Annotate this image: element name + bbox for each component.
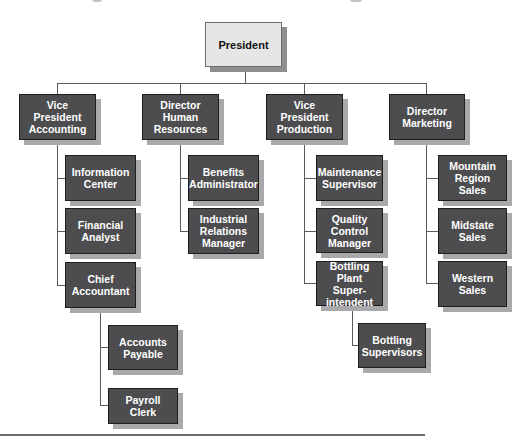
- connector-payroll-clerk: [100, 405, 108, 406]
- connector-bottling-trunk: [352, 306, 353, 346]
- connector-to-dir-marketing: [426, 83, 427, 94]
- node-industrial-relations-manager: Industrial Relations Manager: [188, 208, 259, 254]
- connector-bottling-plant: [304, 283, 316, 284]
- connector-level1-bus: [57, 83, 427, 84]
- node-accounts-payable: Accounts Payable: [108, 325, 178, 370]
- connector-benefits-admin: [180, 178, 188, 179]
- node-payroll-clerk: Payroll Clerk: [108, 388, 178, 424]
- node-chief-accountant: Chief Accountant: [65, 262, 136, 308]
- org-chart: President Vice President Accounting Dire…: [0, 0, 529, 446]
- node-bottling-supervisors: Bottling Supervisors: [358, 323, 426, 368]
- node-western-sales: Western Sales: [438, 261, 507, 307]
- node-financial-analyst: Financial Analyst: [65, 208, 136, 254]
- connector-western: [426, 283, 438, 284]
- node-director-hr: Director Human Resources: [142, 94, 219, 140]
- connector-to-dir-hr: [180, 83, 181, 94]
- connector-to-vp-production: [304, 83, 305, 94]
- connector-industrial-relations: [180, 231, 188, 232]
- node-vp-accounting: Vice President Accounting: [19, 94, 96, 140]
- connector-accounts-payable: [100, 347, 108, 348]
- connector-financial-analyst: [57, 231, 65, 232]
- connector-production-trunk: [304, 140, 305, 284]
- connector-maintenance: [304, 178, 316, 179]
- connector-marketing-trunk: [426, 140, 427, 284]
- connector-info-center: [57, 178, 65, 179]
- node-midstate-sales: Midstate Sales: [438, 208, 507, 254]
- clipped-caption-fragment: [92, 0, 102, 2]
- node-benefits-administrator: Benefits Administrator: [188, 155, 259, 201]
- node-vp-production: Vice President Production: [266, 94, 343, 140]
- connector-chief-accountant: [57, 285, 65, 286]
- node-president: President: [205, 22, 282, 67]
- node-information-center: Information Center: [65, 155, 136, 201]
- connector-quality-control: [304, 231, 316, 232]
- connector-midstate: [426, 231, 438, 232]
- node-quality-control-manager: Quality Control Manager: [316, 208, 383, 253]
- node-bottling-plant-superintendent: Bottling Plant Super- intendent: [316, 261, 383, 306]
- connector-chief-trunk: [100, 308, 101, 406]
- clipped-caption-fragment: [350, 0, 362, 2]
- connector-hr-trunk: [180, 140, 181, 232]
- connector-root-stem: [245, 67, 246, 83]
- connector-to-vp-accounting: [57, 83, 58, 94]
- node-director-marketing: Director Marketing: [389, 94, 465, 140]
- node-mountain-region-sales: Mountain Region Sales: [438, 155, 507, 201]
- connector-mountain-region: [426, 178, 438, 179]
- node-maintenance-supervisor: Maintenance Supervisor: [316, 155, 383, 201]
- bottom-divider: [0, 434, 425, 436]
- connector-accounting-trunk: [57, 140, 58, 286]
